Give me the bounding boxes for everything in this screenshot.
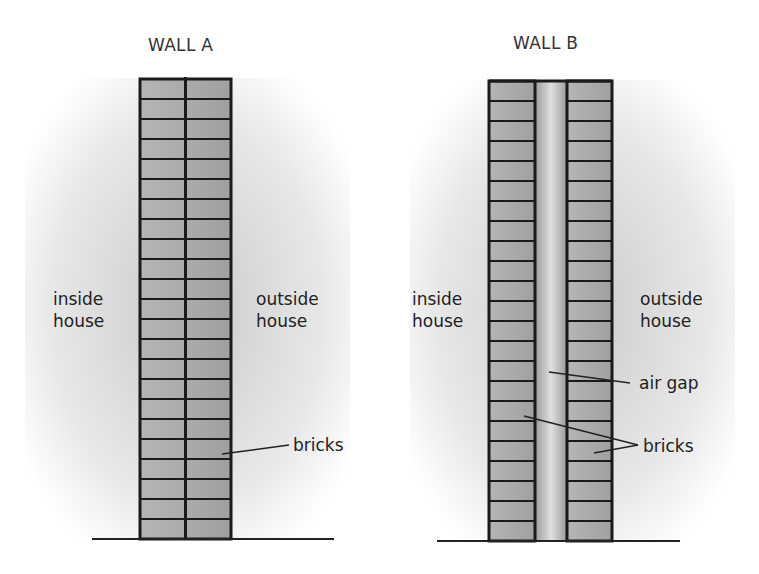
label-line: house <box>256 310 319 332</box>
wall-a-bricks-callout: bricks <box>293 434 344 456</box>
label-line: inside <box>412 288 463 310</box>
label-line: inside <box>53 288 104 310</box>
wall-b-outside-label: outside house <box>640 288 703 332</box>
wall-b-bricks <box>489 81 612 541</box>
label-line: house <box>412 310 463 332</box>
wall-b-bricks-callout: bricks <box>643 435 694 457</box>
wall-a-title: WALL A <box>148 35 213 55</box>
label-line: house <box>640 310 703 332</box>
wall-comparison-diagram: WALL A WALL B inside house outside house… <box>0 0 759 574</box>
diagram-graphics <box>0 0 759 574</box>
label-line: outside <box>256 288 319 310</box>
wall-a-bricks <box>140 77 231 539</box>
wall-b-title: WALL B <box>513 33 578 53</box>
wall-a-outside-label: outside house <box>256 288 319 332</box>
background-halo <box>25 78 735 542</box>
label-line: house <box>53 310 104 332</box>
label-line: outside <box>640 288 703 310</box>
wall-a-inside-label: inside house <box>53 288 104 332</box>
wall-b-inside-label: inside house <box>412 288 463 332</box>
wall-b-air-gap-callout: air gap <box>639 372 699 394</box>
